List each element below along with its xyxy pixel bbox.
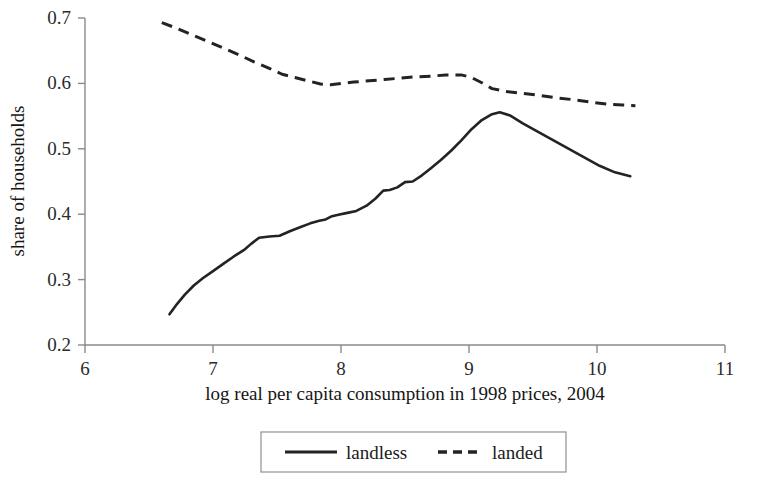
y-axis-tick-labels: 0.20.30.40.50.60.7 (47, 7, 71, 355)
x-tick-label: 9 (464, 358, 474, 379)
y-tick-label: 0.4 (47, 203, 71, 224)
y-tick-label: 0.5 (47, 138, 71, 159)
x-tick-label: 11 (716, 358, 734, 379)
series-line-landless (169, 112, 630, 314)
series-line-landed (162, 23, 636, 106)
x-tick-label: 6 (80, 358, 90, 379)
y-tick-label: 0.6 (47, 72, 71, 93)
y-tick-label: 0.7 (47, 7, 71, 28)
x-tick-label: 10 (588, 358, 607, 379)
chart-figure: 0.20.30.40.50.60.7 67891011 log real per… (0, 0, 760, 486)
x-tick-label: 7 (208, 358, 218, 379)
y-axis-title: share of households (7, 106, 28, 257)
x-tick-label: 8 (336, 358, 346, 379)
chart-legend: landless landed (261, 432, 566, 472)
legend-label-landed: landed (492, 442, 543, 463)
y-tick-label: 0.3 (47, 269, 71, 290)
line-chart: 0.20.30.40.50.60.7 67891011 log real per… (0, 0, 760, 486)
x-axis-ticks (85, 345, 725, 353)
series-lines (162, 23, 636, 315)
y-axis-ticks (78, 18, 85, 345)
y-tick-label: 0.2 (47, 334, 71, 355)
x-axis-title: log real per capita consumption in 1998 … (205, 383, 605, 404)
legend-label-landless: landless (346, 442, 407, 463)
x-axis-tick-labels: 67891011 (80, 358, 734, 379)
